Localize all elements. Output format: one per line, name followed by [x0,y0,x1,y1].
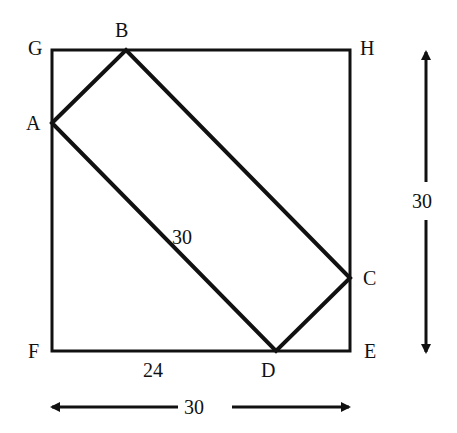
width-dimension-label: 30 [184,396,204,418]
outer-square [52,50,350,351]
label-h: H [360,37,374,59]
fd-length-label: 24 [143,359,163,381]
geometry-diagram: G B H A C F D E 30 24 30 30 [0,0,457,433]
label-b: B [115,19,128,41]
height-dimension-label: 30 [412,190,432,212]
diagonal-length-label: 30 [172,226,192,248]
label-e: E [364,340,376,362]
label-a: A [26,112,41,134]
inner-rectangle [52,50,350,351]
label-c: C [363,267,376,289]
label-g: G [28,37,42,59]
label-d: D [261,359,275,381]
label-f: F [28,340,39,362]
